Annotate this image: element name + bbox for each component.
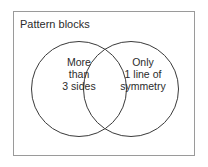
venn-label-right-line-2: 1 line of (120, 69, 166, 81)
venn-label-left-line-3: 3 sides (62, 81, 95, 93)
venn-label-left: More than 3 sides (62, 57, 95, 92)
venn-label-left-line-2: than (62, 69, 95, 81)
venn-circles (0, 0, 208, 167)
venn-label-right: Only 1 line of symmetry (120, 57, 166, 92)
venn-label-right-line-3: symmetry (120, 81, 166, 93)
venn-diagram-figure: Pattern blocks More than 3 sides Only 1 … (0, 0, 208, 167)
